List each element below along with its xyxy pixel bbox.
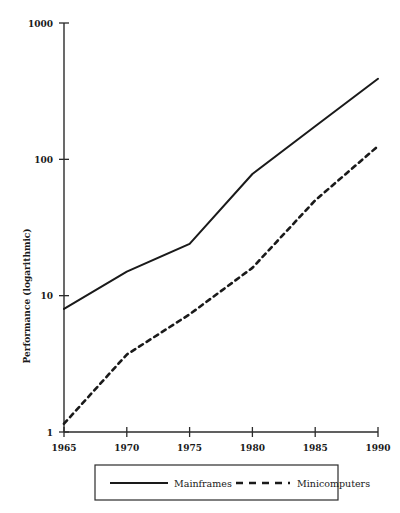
series-line-mainframes <box>64 79 378 309</box>
x-tick-label: 1965 <box>51 443 76 453</box>
y-tick-label: 1 <box>47 428 53 438</box>
series-line-minicomputers <box>64 146 378 424</box>
x-tick-label: 1975 <box>177 443 202 453</box>
x-tick-label: 1985 <box>303 443 328 453</box>
performance-line-chart: 1101001000 Performance (logarithmic) 196… <box>0 0 400 513</box>
chart-container: 1101001000 Performance (logarithmic) 196… <box>0 0 400 513</box>
x-tick-label: 1980 <box>240 443 265 453</box>
x-axis-ticks: 196519701975198019851990 <box>51 427 390 453</box>
y-axis-title: Performance (logarithmic) <box>22 228 32 363</box>
legend-label-minicomputers: Minicomputers <box>297 478 370 489</box>
y-tick-label: 1000 <box>28 19 53 29</box>
legend-label-mainframes: Mainframes <box>174 478 232 489</box>
y-tick-label: 10 <box>40 291 53 301</box>
data-series-group <box>64 79 378 424</box>
y-axis-group: 1101001000 Performance (logarithmic) <box>22 19 69 438</box>
chart-legend: MainframesMinicomputers <box>95 465 370 500</box>
x-axis-group: 196519701975198019851990 <box>51 427 390 453</box>
y-tick-label: 100 <box>34 155 53 165</box>
y-axis-ticks: 1101001000 <box>28 19 69 438</box>
x-tick-label: 1970 <box>114 443 139 453</box>
x-tick-label: 1990 <box>365 443 390 453</box>
